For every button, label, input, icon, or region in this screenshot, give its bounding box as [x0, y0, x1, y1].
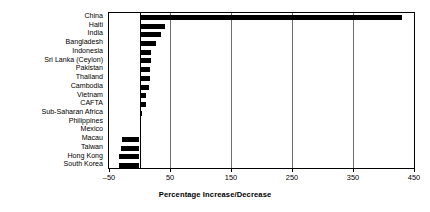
bar: [140, 111, 142, 116]
plot-area: [108, 12, 415, 169]
bar: [140, 58, 152, 63]
bar: [140, 24, 166, 29]
x-tick: [353, 169, 354, 172]
category-axis-labels: ChinaHaitiIndiaBangladeshIndonesiaSri La…: [0, 12, 106, 169]
plot-inner: [109, 13, 414, 168]
category-label: Mexico: [81, 125, 103, 134]
category-label: Vietnam: [77, 91, 103, 100]
category-label: Sub-Saharan Africa: [41, 108, 103, 117]
bar: [140, 32, 162, 37]
category-label: Indonesia: [72, 47, 103, 56]
x-tick-label: 350: [347, 173, 359, 182]
x-axis-title: Percentage Increase/Decrease: [0, 190, 430, 199]
category-label: India: [88, 29, 103, 38]
bar: [121, 146, 140, 151]
x-tick-label: –50: [103, 173, 115, 182]
category-label: Cambodia: [71, 82, 103, 91]
category-label: Macau: [82, 134, 103, 143]
x-tick-label: 250: [286, 173, 298, 182]
x-tick: [231, 169, 232, 172]
bar: [140, 41, 156, 46]
bar: [119, 154, 140, 159]
bar: [140, 67, 151, 72]
bar: [140, 50, 152, 55]
bar: [140, 85, 150, 90]
x-tick-label: 150: [225, 173, 237, 182]
gridline: [170, 13, 171, 168]
gridline: [292, 13, 293, 168]
bar: [140, 128, 142, 133]
category-label: Philippines: [69, 117, 103, 126]
x-tick-label: 450: [408, 173, 420, 182]
x-tick: [109, 169, 110, 172]
category-label: Sri Lanka (Ceylon): [44, 56, 103, 65]
bar: [122, 137, 140, 142]
category-label: Thailand: [76, 73, 103, 82]
category-label: China: [84, 12, 103, 21]
category-label: CAFTA: [80, 99, 103, 108]
chart-page: ChinaHaitiIndiaBangladeshIndonesiaSri La…: [0, 0, 430, 212]
x-tick: [170, 169, 171, 172]
bar: [140, 120, 142, 125]
gridline: [353, 13, 354, 168]
bar: [140, 15, 402, 20]
bar: [119, 163, 139, 168]
x-tick: [414, 169, 415, 172]
bar: [140, 76, 150, 81]
bar: [140, 102, 146, 107]
category-label: Bangladesh: [66, 38, 103, 47]
x-tick: [292, 169, 293, 172]
category-label: South Korea: [64, 160, 103, 169]
category-label: Taiwan: [81, 143, 103, 152]
bar: [140, 93, 147, 98]
category-label: Haiti: [89, 21, 103, 30]
category-label: Hong Kong: [68, 152, 104, 161]
x-tick-label: 50: [166, 173, 174, 182]
category-label: Pakistan: [76, 64, 103, 73]
gridline: [231, 13, 232, 168]
